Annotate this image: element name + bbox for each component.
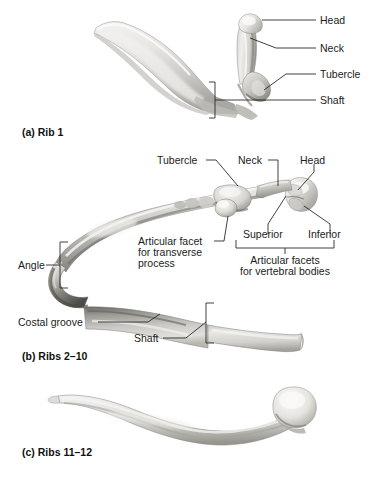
- rib11to12-head-highlight: [279, 391, 305, 409]
- rib2to10-posterior-knob-3: [174, 201, 186, 209]
- leader-neck-a: [250, 38, 316, 48]
- label-superior-b: Superior: [243, 228, 283, 240]
- rib-anatomy-figure: Head Neck Tubercle Shaft (a) Rib 1: [0, 0, 374, 477]
- label-head-a: Head: [320, 14, 345, 26]
- rib11to12-tip: [48, 396, 60, 403]
- panel-a-illustration: [94, 14, 271, 120]
- rib2to10-posterior-knob-1: [198, 196, 214, 208]
- rib1-costal-end: [234, 104, 258, 120]
- panel-c-illustration: [48, 387, 316, 445]
- rib1-head-highlight: [242, 17, 256, 26]
- leader-transverse-facet-b: [214, 216, 228, 241]
- rib2to10-posterior-knob-2: [185, 198, 199, 208]
- leader-tubercle-b: [206, 160, 238, 186]
- bracket-vertebral-facets-b: [236, 240, 334, 248]
- rib2to10-tubercle-highlight: [219, 187, 241, 197]
- label-head-b: Head: [300, 154, 325, 166]
- label-costal-groove-b: Costal groove: [18, 316, 83, 328]
- label-shaft-a: Shaft: [320, 94, 345, 106]
- leader-tubercle-a: [264, 74, 316, 90]
- caption-panel-a: (a) Rib 1: [22, 126, 64, 138]
- caption-panel-c: (c) Ribs 11–12: [22, 446, 92, 458]
- caption-panel-b: (b) Ribs 2–10: [22, 350, 88, 362]
- label-transverse-facet-line3: process: [138, 257, 175, 269]
- label-neck-a: Neck: [320, 42, 345, 54]
- label-inferior-b: Inferior: [308, 228, 341, 240]
- label-angle-b: Angle: [18, 259, 45, 271]
- label-neck-b: Neck: [238, 154, 263, 166]
- label-shaft-b: Shaft: [134, 332, 159, 344]
- rib2to10-transverse-facet-highlight: [217, 200, 229, 208]
- label-vertebral-facets-line2: for vertebral bodies: [240, 265, 330, 277]
- label-tubercle-b: Tubercle: [157, 154, 198, 166]
- label-tubercle-a: Tubercle: [320, 68, 361, 80]
